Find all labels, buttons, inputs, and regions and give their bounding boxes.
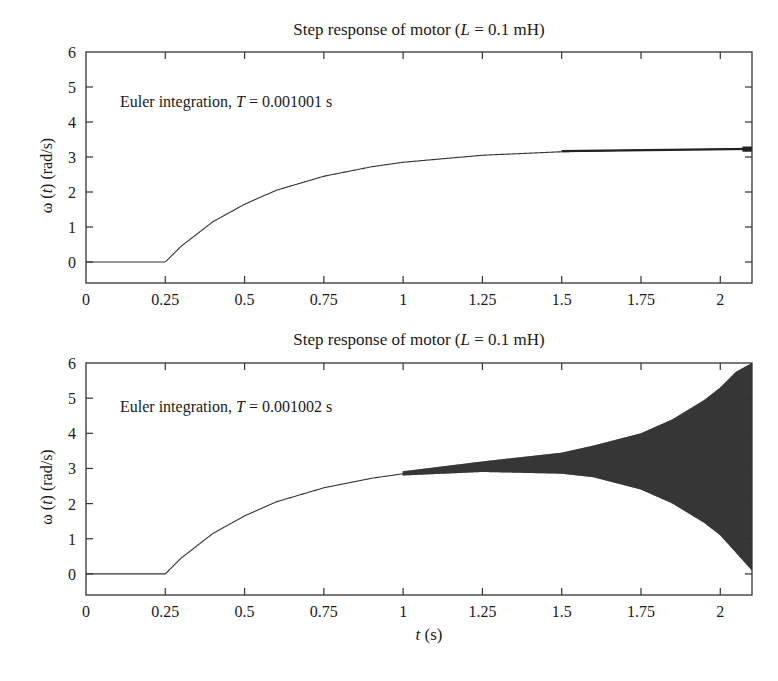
x-tick-label: 1 xyxy=(399,603,407,620)
x-tick-label: 0.5 xyxy=(235,291,255,308)
x-tick-label: 1 xyxy=(399,291,407,308)
x-tick-label: 1.5 xyxy=(552,291,572,308)
y-tick-label: 1 xyxy=(68,531,76,548)
plot-top: Step response of motor (L = 0.1 mH)00.25… xyxy=(38,20,752,308)
y-tick-label: 4 xyxy=(68,425,76,442)
y-tick-label: 5 xyxy=(68,390,76,407)
y-tick-label: 2 xyxy=(68,496,76,513)
figure: Step response of motor (L = 0.1 mH)00.25… xyxy=(0,0,778,681)
chart-title: Step response of motor (L = 0.1 mH) xyxy=(293,20,544,39)
axes-frame xyxy=(86,52,752,283)
annotation: Euler integration, T = 0.001002 s xyxy=(120,398,332,416)
y-tick-label: 5 xyxy=(68,79,76,96)
x-tick-label: 0.25 xyxy=(151,603,179,620)
y-tick-label: 3 xyxy=(68,460,76,477)
y-axis-label: ω (t) (rad/s) xyxy=(38,449,56,524)
x-tick-label: 0.75 xyxy=(310,291,338,308)
data-series xyxy=(86,363,752,574)
x-tick-label: 0.75 xyxy=(310,603,338,620)
x-tick-label: 1.75 xyxy=(627,603,655,620)
x-tick-label: 2 xyxy=(716,603,724,620)
x-tick-label: 1.25 xyxy=(468,291,496,308)
y-tick-label: 0 xyxy=(68,254,76,271)
x-tick-label: 0 xyxy=(82,603,90,620)
y-tick-label: 6 xyxy=(68,355,76,372)
plot-bottom: Step response of motor (L = 0.1 mH)00.25… xyxy=(38,330,752,644)
x-tick-label: 1.75 xyxy=(627,291,655,308)
x-axis-label: t (s) xyxy=(416,625,443,644)
chart-title: Step response of motor (L = 0.1 mH) xyxy=(293,330,544,349)
x-tick-label: 2 xyxy=(716,291,724,308)
x-tick-label: 1.5 xyxy=(552,603,572,620)
y-tick-label: 4 xyxy=(68,114,76,131)
data-series xyxy=(86,147,752,263)
x-tick-label: 0 xyxy=(82,291,90,308)
y-tick-label: 3 xyxy=(68,149,76,166)
x-tick-label: 0.25 xyxy=(151,291,179,308)
y-tick-label: 1 xyxy=(68,219,76,236)
y-axis-label: ω (t) (rad/s) xyxy=(38,138,56,213)
x-tick-label: 1.25 xyxy=(468,603,496,620)
x-tick-label: 0.5 xyxy=(235,603,255,620)
annotation: Euler integration, T = 0.001001 s xyxy=(120,93,332,111)
y-tick-label: 6 xyxy=(68,44,76,61)
y-tick-label: 0 xyxy=(68,566,76,583)
y-tick-label: 2 xyxy=(68,184,76,201)
